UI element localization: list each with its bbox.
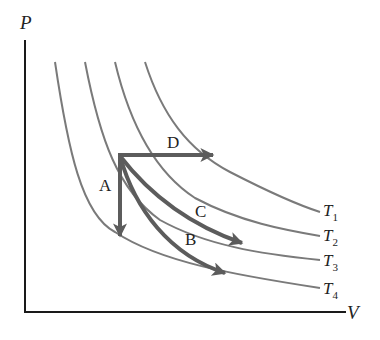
process-label-b: B — [185, 231, 196, 248]
isotherm-label-t2: T2 — [323, 227, 338, 244]
isotherm-label-t1-sub: 1 — [332, 211, 338, 223]
v-axis-label: V — [347, 303, 359, 322]
isotherm-label-t2-sub: 2 — [332, 236, 338, 248]
isotherm-label-t4-sub: 4 — [332, 289, 338, 301]
p-axis-label: P — [20, 13, 32, 32]
isotherm-label-t4: T4 — [323, 280, 338, 297]
process-label-a: A — [99, 177, 111, 194]
isotherm-label-t3-sub: 3 — [332, 261, 338, 273]
isotherm-label-t3: T3 — [323, 252, 338, 269]
process-label-c: C — [195, 203, 206, 220]
isotherm-label-t1: T1 — [323, 202, 338, 219]
process-label-d: D — [167, 134, 179, 151]
